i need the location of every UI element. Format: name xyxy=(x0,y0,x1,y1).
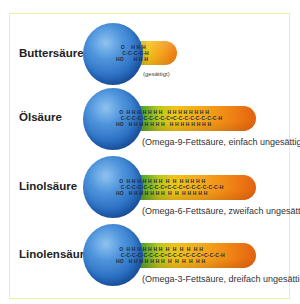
saturation-note: (Omega-6-Fettsäure, zweifach ungesättigt… xyxy=(142,206,300,216)
chain-bot: HO H H H H H H H H H H H H H H H xyxy=(116,121,211,127)
chain-formula: O H H H H H H H H H H H H H H C-C-C-C-C-… xyxy=(116,178,224,196)
chain-bot: HO H H H xyxy=(116,56,148,62)
acid-name: Linolensäure xyxy=(19,248,91,260)
chain-bot: HO H H H H H H H H H H H H H H xyxy=(116,190,207,196)
acid-name: Ölsäure xyxy=(19,111,62,123)
acid-name: Linolsäure xyxy=(19,180,77,192)
saturation-note: (gesättigt) xyxy=(143,71,170,77)
chain-formula: O H H H H H H H H H H H H H C-C-C-C-C-C-… xyxy=(116,246,225,264)
chain-formula: O H H H C-C-C-C-H HO H H H xyxy=(116,44,149,62)
saturation-note: (Omega-9-Fettsäure, einfach ungesättigt) xyxy=(142,137,300,147)
chain-formula: O H H H H H H H H H H H H H H H C-C-C-C-… xyxy=(116,109,222,127)
saturation-note: (Omega-3-Fettsäure, dreifach ungesättigt… xyxy=(142,274,300,284)
acid-name: Buttersäure xyxy=(19,47,84,59)
chain-bot: HO H H H H H H H H H H H H H xyxy=(116,258,205,264)
